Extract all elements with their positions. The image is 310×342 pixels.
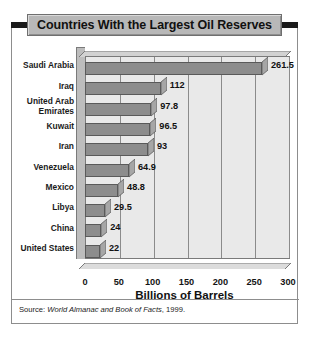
category-label: Saudi Arabia [12,61,74,71]
bar-item: 64.9 [85,159,137,179]
bar-front-face [85,224,101,237]
bar-front-face [85,204,105,217]
value-tick-label: 200 [213,277,228,287]
title-cap-right-icon [282,22,298,28]
source-divider [12,299,299,300]
bar-front-face [85,103,151,116]
page-title: Countries With the Largest Oil Reserves [37,18,272,32]
bar-value-label: 97.8 [160,101,178,111]
category-label: Kuwait [12,122,74,132]
source-publication: World Almanac and Book of Facts [47,305,162,314]
bar-value-label: 29.5 [114,202,132,212]
bar-side-face [100,240,106,259]
bar-side-face [101,219,107,238]
category-label: Iraq [12,82,74,92]
title-box: Countries With the Largest Oil Reserves [27,14,282,36]
category-label: Iran [12,142,74,152]
bar-item: 29.5 [85,199,113,219]
bar-side-face [118,179,124,198]
plot-left-wall [76,47,85,259]
category-label: Libya [12,203,74,213]
category-label: United States [12,244,74,254]
bar-item: 24 [85,219,109,239]
bar-front-face [85,123,150,136]
bar-side-face [262,57,268,76]
bar-value-label: 96.5 [159,121,177,131]
bar-value-label: 112 [170,80,185,90]
bar-side-face [148,138,154,157]
source-note: Source: World Almanac and Book of Facts,… [19,305,185,314]
bar-item: 96.5 [85,118,158,138]
bar-value-label: 24 [110,222,120,232]
bar-side-face [105,199,111,218]
plot-floor [76,259,293,269]
chart-screenshot: Saudi ArabiaIraqUnited ArabEmiratesKuwai… [0,0,310,342]
value-tick-label: 100 [145,277,160,287]
value-tick-label: 300 [280,277,295,287]
category-label: China [12,224,74,234]
title-cap-left-icon [11,22,27,28]
bar-front-face [85,184,118,197]
bar-value-label: 48.8 [127,182,145,192]
plot-3d-box: 261.511297.896.59364.948.829.52422 [76,47,293,273]
category-axis-labels: Saudi ArabiaIraqUnited ArabEmiratesKuwai… [12,55,74,267]
value-tick-label: 250 [246,277,261,287]
category-label: Mexico [12,183,74,193]
bar-item: 22 [85,240,108,260]
bar-value-label: 261.5 [271,60,294,70]
bar-series: 261.511297.896.59364.948.829.52422 [85,56,290,259]
bar-value-label: 64.9 [138,162,156,172]
bar-side-face [161,77,167,96]
bar-value-label: 93 [157,141,167,151]
bar-front-face [85,143,148,156]
bar-value-label: 22 [109,243,119,253]
plot-floor-shape [76,263,293,269]
value-tick-label: 150 [179,277,194,287]
category-label: Venezuela [12,163,74,173]
bar-side-face [129,159,135,178]
bar-side-face [150,118,156,137]
bar-front-face [85,164,129,177]
chart-plot-region: Saudi ArabiaIraqUnited ArabEmiratesKuwai… [12,41,299,299]
bar-item: 97.8 [85,98,159,118]
bar-side-face [151,98,157,117]
bar-front-face [85,245,100,258]
bar-front-face [85,62,262,75]
source-year: , 1999. [162,305,185,314]
chart-card: Saudi ArabiaIraqUnited ArabEmiratesKuwai… [11,22,298,324]
category-label: United ArabEmirates [12,97,74,116]
bar-item: 112 [85,77,169,97]
bar-item: 261.5 [85,57,270,77]
chart-title-banner: Countries With the Largest Oil Reserves [11,13,298,37]
bar-front-face [85,82,161,95]
source-prefix: Source: [19,305,47,314]
bar-item: 48.8 [85,179,126,199]
value-tick-label: 0 [82,277,87,287]
bar-item: 93 [85,138,156,158]
value-tick-label: 50 [114,277,124,287]
